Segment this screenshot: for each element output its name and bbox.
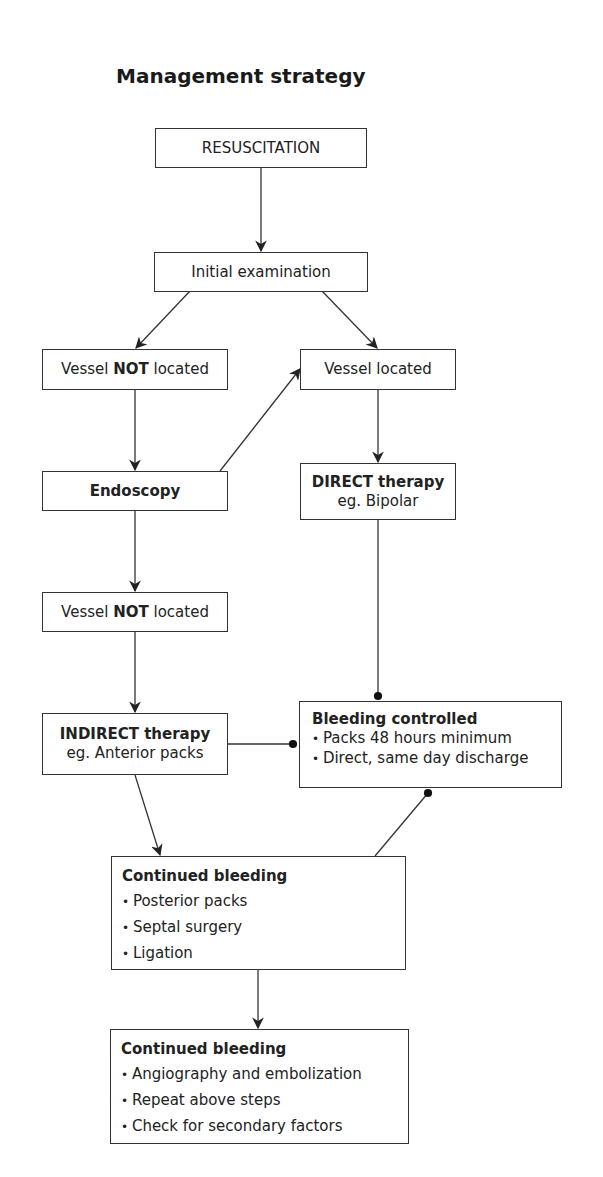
list-item: Direct, same day discharge [312, 749, 561, 769]
node-title: Bleeding controlled [312, 710, 561, 729]
node-label: Vessel located [324, 360, 432, 379]
list-item: Packs 48 hours minimum [312, 729, 561, 749]
flow-connectors [0, 0, 603, 1177]
edge-indirect-to-continued [135, 775, 160, 855]
node-resuscitation: RESUSCITATION [155, 128, 367, 168]
label-pre: Vessel [61, 603, 113, 621]
node-bleeding-controlled: Bleeding controlled Packs 48 hours minim… [299, 701, 562, 788]
list-item: Septal surgery [122, 918, 405, 938]
node-direct-therapy: DIRECT therapy eg. Bipolar [300, 463, 456, 520]
list-item: Repeat above steps [121, 1091, 408, 1111]
list-item: Check for secondary factors [121, 1117, 408, 1137]
node-subtitle: eg. Bipolar [338, 492, 419, 511]
node-indirect-therapy: INDIRECT therapy eg. Anterior packs [42, 713, 228, 775]
node-label: Vessel NOT located [61, 360, 209, 379]
node-vessel-located: Vessel located [300, 349, 456, 390]
label-emphasis: NOT [113, 603, 149, 621]
node-title: Continued bleeding [122, 867, 405, 886]
node-label: Initial examination [191, 263, 331, 282]
edge-continued-to-controlled [375, 793, 428, 856]
label-pre: Vessel [61, 360, 113, 378]
node-title: Continued bleeding [121, 1040, 408, 1059]
edge-exam-to-located [322, 291, 377, 348]
label-post: located [149, 603, 209, 621]
node-label: Endoscopy [90, 482, 181, 501]
node-continued-bleeding-2: Continued bleeding Angiography and embol… [110, 1029, 409, 1144]
node-title: INDIRECT therapy [60, 725, 210, 744]
list-item: Angiography and embolization [121, 1065, 408, 1085]
node-vessel-not-located-2: Vessel NOT located [42, 592, 228, 632]
node-label: RESUSCITATION [202, 139, 321, 158]
list-item: Posterior packs [122, 892, 405, 912]
list-item: Ligation [122, 944, 405, 964]
node-endoscopy: Endoscopy [42, 471, 228, 511]
label-post: located [149, 360, 209, 378]
node-initial-examination: Initial examination [154, 252, 368, 292]
node-subtitle: eg. Anterior packs [66, 744, 203, 763]
node-continued-bleeding-1: Continued bleeding Posterior packs Septa… [111, 856, 406, 970]
node-label: Vessel NOT located [61, 603, 209, 622]
node-title: DIRECT therapy [312, 473, 444, 492]
label-emphasis: NOT [113, 360, 149, 378]
node-vessel-not-located-1: Vessel NOT located [42, 349, 228, 390]
edge-endoscopy-to-located [220, 369, 300, 471]
edge-exam-to-not-located [136, 291, 190, 348]
